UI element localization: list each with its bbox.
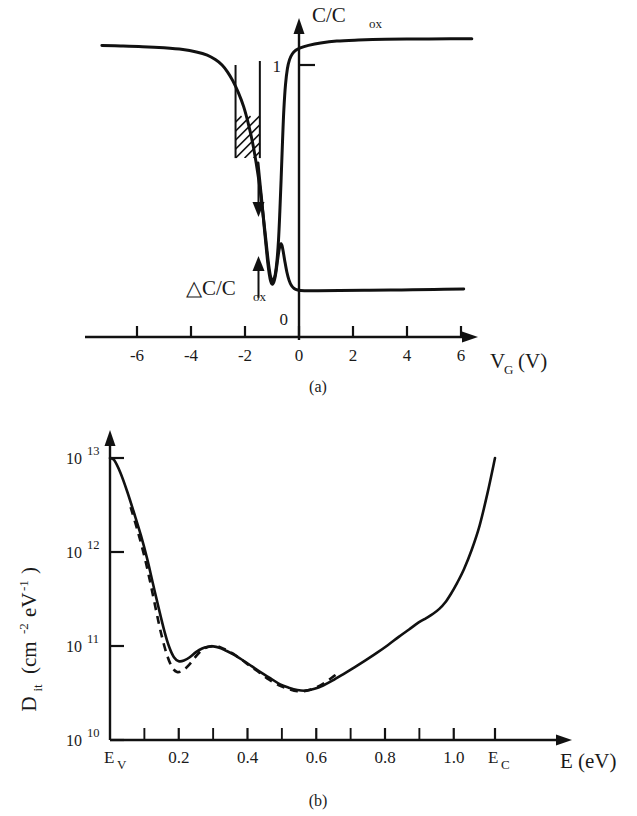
panel-a-x-tick-label: -4 — [184, 346, 199, 365]
x-axis-title-base: E — [560, 749, 573, 773]
hatch-stroke — [407, 116, 449, 158]
x-axis-title-unit: (eV) — [578, 749, 616, 773]
hatch-stroke — [281, 116, 323, 158]
hatch-stroke — [173, 116, 215, 158]
ec-label-sub: C — [501, 757, 510, 772]
y-axis-title-base: C/C — [312, 3, 346, 27]
panel-a-x-tick-label: 6 — [457, 346, 466, 365]
panel-a-curves — [102, 39, 472, 291]
panel-b-x-tick-label: 0.6 — [306, 748, 327, 767]
panel-b-x-tick-label: 0.4 — [237, 748, 259, 767]
panel-b-y-tick-label-base: 10 — [66, 544, 82, 561]
panel-b-y-axis — [105, 430, 116, 740]
panel-b-y-tick-label-exponent: 13 — [87, 444, 100, 458]
panel-b-y-tick-label-exponent: 12 — [87, 538, 100, 552]
y-axis-arrowhead — [105, 430, 116, 446]
hatch-stroke — [308, 116, 350, 158]
hatch-stroke — [290, 116, 332, 158]
panel-a-x-tick-label: -2 — [238, 346, 252, 365]
hatch-stroke — [389, 116, 431, 158]
hatch-stroke — [335, 116, 377, 158]
dit-dashed-curve — [131, 507, 339, 691]
y-axis-title-unit-close: ) — [17, 567, 41, 574]
panel-a-x-axis-title: V G (V) — [490, 349, 547, 377]
panel-b-x-ticks — [144, 728, 495, 740]
x-axis-arrowhead — [462, 332, 478, 343]
x-axis-title-base: V — [490, 349, 505, 373]
hatch-stroke — [344, 116, 386, 158]
panel-b-y-tick-label-base: 10 — [66, 732, 82, 749]
hatch-stroke — [164, 116, 206, 158]
y-axis-title-unit-exp1: -2 — [16, 623, 31, 634]
delta-c-label-sub: ox — [253, 289, 267, 304]
low-frequency-cv-curve — [258, 163, 464, 291]
y-axis-title-sub: ox — [369, 16, 383, 31]
high-frequency-cv-curve — [102, 39, 472, 281]
panel-b-y-tick-labels: 1013101210111010 — [66, 444, 100, 749]
hatch-stroke — [182, 116, 224, 158]
ev-label-sub: V — [117, 757, 127, 772]
panel-b-y-tick-label-base: 10 — [66, 450, 82, 467]
hatch-stroke — [191, 116, 233, 158]
panel-a-x-tick-label: 0 — [295, 346, 304, 365]
panel-a-x-axis — [85, 332, 478, 343]
panel-b-x-tick-label: 1.0 — [443, 748, 464, 767]
panel-a-x-ticks — [137, 326, 461, 337]
hatch-stroke — [317, 116, 359, 158]
panel-a-caption: (a) — [309, 378, 327, 396]
panel-b-y-tick-label-base: 10 — [66, 638, 82, 655]
x-axis-title-unit: (V) — [518, 349, 547, 373]
x-axis-title-sub: G — [504, 362, 513, 377]
hatch-stroke — [209, 116, 251, 158]
dit-solid-curve — [110, 458, 495, 691]
y-axis-title-sub: it — [30, 684, 45, 692]
hatch-stroke — [353, 116, 395, 158]
hatch-stroke — [155, 116, 197, 158]
panel-a-annotations — [146, 61, 449, 298]
panel-b-x-tick-label: 0.8 — [374, 748, 395, 767]
panel-a-y-tick-label-0: 0 — [280, 310, 289, 329]
hatch-stroke — [380, 116, 422, 158]
y-axis-title-unit-open: (cm — [17, 641, 41, 674]
y-axis-title-base: D — [17, 696, 41, 711]
hatch-stroke — [398, 116, 440, 158]
x-axis-arrowhead — [556, 735, 572, 746]
panel-a-x-tick-labels: -6-4-20246 — [130, 346, 465, 365]
hatch-stroke — [299, 116, 341, 158]
panel-b-y-axis-title: D it (cm -2 eV -1 ) — [16, 567, 45, 712]
panel-b-x-axis-title: E (eV) — [560, 749, 616, 773]
panel-a-x-tick-label: 2 — [349, 346, 358, 365]
panel-b-x-tick-label: 0.2 — [168, 748, 189, 767]
panel-a-svg: -6-4-20246 1 0 C/C ox V G (V) △C/C ox — [0, 0, 637, 400]
panel-a-cv-chart: -6-4-20246 1 0 C/C ox V G (V) △C/C ox — [0, 0, 637, 400]
hatch-stroke — [362, 116, 404, 158]
y-axis-title-unit-mid: eV — [17, 593, 41, 618]
panel-b-caption: (b) — [309, 792, 328, 810]
ec-label-base: E — [488, 748, 498, 767]
panel-b-x-tick-labels: 0.20.40.60.81.0 — [168, 748, 464, 767]
panel-b-x-tick-label-ev: E V — [104, 748, 127, 772]
hatched-band — [146, 116, 449, 158]
panel-b-curves — [110, 458, 495, 691]
panel-b-y-tick-label-exponent: 11 — [87, 632, 99, 646]
panel-b-x-tick-label-ec: E C — [488, 748, 510, 772]
hatch-stroke — [272, 116, 314, 158]
panel-a-delta-c-label: △C/C ox — [186, 276, 267, 304]
delta-c-label-base: △C/C — [186, 276, 236, 300]
hatch-stroke — [326, 116, 368, 158]
panel-b-svg: 1013101210111010 0.20.40.60.81.0 E V E C… — [0, 400, 637, 816]
panel-b-y-ticks — [110, 458, 124, 740]
panel-a-x-tick-label: -6 — [130, 346, 144, 365]
panel-a-x-tick-label: 4 — [403, 346, 412, 365]
ev-label-base: E — [104, 748, 114, 767]
up-arrow-head — [253, 256, 265, 271]
hatch-stroke — [371, 116, 413, 158]
y-axis-title-unit-exp2: -1 — [16, 580, 31, 591]
hatch-stroke — [146, 116, 188, 158]
panel-b-y-tick-label-exponent: 10 — [87, 726, 100, 740]
hatch-stroke — [236, 116, 278, 158]
panel-b-dit-chart: 1013101210111010 0.20.40.60.81.0 E V E C… — [0, 400, 637, 816]
figure-root: -6-4-20246 1 0 C/C ox V G (V) △C/C ox — [0, 0, 637, 816]
panel-a-y-axis-title: C/C ox — [312, 3, 383, 31]
panel-a-y-tick-label-1: 1 — [273, 57, 282, 76]
